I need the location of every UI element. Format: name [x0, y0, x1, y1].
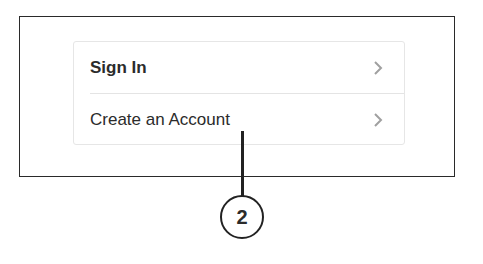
chevron-right-icon: [371, 58, 385, 78]
callout-line: [241, 131, 244, 196]
chevron-right-icon: [371, 110, 385, 130]
sign-in-label: Sign In: [90, 58, 147, 78]
callout-number-badge: 2: [220, 195, 264, 239]
create-account-row[interactable]: Create an Account: [74, 94, 404, 145]
create-account-label: Create an Account: [90, 110, 230, 130]
callout-number: 2: [236, 206, 247, 229]
account-options-card: Sign In Create an Account: [73, 41, 405, 145]
sign-in-row[interactable]: Sign In: [74, 42, 404, 93]
